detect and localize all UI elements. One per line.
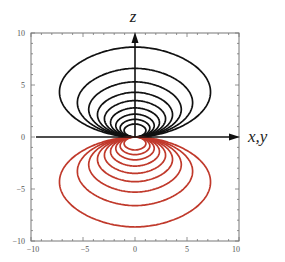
x-tick-label: 5	[185, 245, 189, 254]
y-tick-label: −10	[12, 237, 25, 246]
contour-plot: 10 5 0 −5 −10 −10 −5 0 5 10 z x,y	[0, 0, 285, 262]
y-tick-label: 0	[21, 133, 25, 142]
y-tick-label: −5	[16, 185, 25, 194]
x-tick-label: 0	[133, 245, 137, 254]
x-tick-label: −10	[27, 245, 40, 254]
arrow-up-icon	[132, 32, 139, 43]
y-tick-label: 5	[21, 81, 25, 90]
x-tick-label: −5	[81, 245, 90, 254]
arrow-right-icon	[229, 134, 240, 141]
xy-axis-label: x,y	[247, 127, 268, 146]
z-axis-label: z	[129, 7, 137, 26]
x-tick-label: 10	[232, 245, 240, 254]
y-tick-label: 10	[17, 29, 25, 38]
